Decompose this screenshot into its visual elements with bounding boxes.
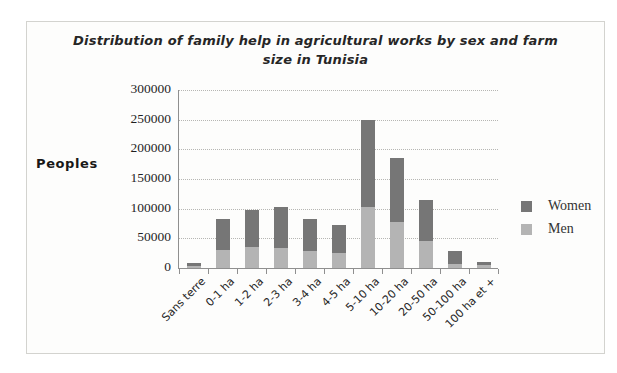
x-tick [353, 269, 354, 274]
gridline [179, 179, 498, 180]
bar-segment-women-0 [187, 263, 201, 267]
y-tick-label: 200000 [87, 140, 171, 156]
y-tick-label: 100000 [87, 200, 171, 216]
bar-segment-women-9 [448, 251, 462, 263]
plot-area: 050000100000150000200000250000300000Sans… [178, 90, 498, 269]
bar-segment-men-3 [274, 248, 288, 268]
bar-segment-women-6 [361, 120, 375, 207]
y-tick-label: 150000 [87, 170, 171, 186]
bar-segment-men-6 [361, 207, 375, 268]
legend-swatch-women [521, 201, 532, 212]
gridline [179, 149, 498, 150]
bar-segment-women-1 [216, 219, 230, 250]
x-category-label: 3-4 ha [290, 275, 324, 309]
x-tick [382, 269, 383, 274]
bar-segment-women-2 [245, 210, 259, 247]
legend-item-men: Men [521, 221, 591, 237]
bar-segment-men-8 [419, 241, 433, 268]
x-tick [179, 269, 180, 274]
gridline [179, 209, 498, 210]
x-tick [295, 269, 296, 274]
chart-title: Distribution of family help in agricultu… [67, 31, 564, 69]
legend-label-women: Women [548, 198, 591, 214]
x-tick [440, 269, 441, 274]
x-category-label: 1-2 ha [232, 275, 266, 309]
bar-segment-men-0 [187, 266, 201, 268]
legend-swatch-men [521, 224, 532, 235]
x-tick [266, 269, 267, 274]
bar-segment-women-8 [419, 200, 433, 241]
bar-segment-men-5 [332, 253, 346, 268]
bar-segment-women-7 [390, 158, 404, 222]
gridline [179, 120, 498, 121]
x-tick [469, 269, 470, 274]
bar-segment-men-7 [390, 222, 404, 268]
legend: WomenMen [521, 198, 591, 237]
legend-label-men: Men [548, 221, 574, 237]
bar-segment-men-1 [216, 250, 230, 268]
y-tick-label: 300000 [87, 81, 171, 97]
y-axis-title: Peoples [36, 156, 98, 171]
bar-segment-men-2 [245, 247, 259, 268]
x-tick [498, 269, 499, 274]
chart-title-line-1: Distribution of family help in agricultu… [67, 31, 564, 50]
chart-frame: Distribution of family help in agricultu… [26, 21, 605, 354]
legend-item-women: Women [521, 198, 591, 214]
x-category-label: 2-3 ha [261, 275, 295, 309]
x-tick [324, 269, 325, 274]
x-tick [237, 269, 238, 274]
bar-segment-women-3 [274, 207, 288, 247]
bar-segment-men-4 [303, 251, 317, 268]
x-tick [411, 269, 412, 274]
y-tick-label: 50000 [87, 229, 171, 245]
y-tick-label: 250000 [87, 111, 171, 127]
x-category-label: 0-1 ha [203, 275, 237, 309]
x-category-label: Sans terre [159, 275, 208, 324]
gridline [179, 90, 498, 91]
y-tick-label: 0 [87, 259, 171, 275]
chart-title-line-2: size in Tunisia [67, 50, 564, 69]
bar-segment-men-9 [448, 264, 462, 268]
bar-segment-women-4 [303, 219, 317, 251]
bar-segment-men-10 [477, 265, 491, 268]
bar-segment-women-10 [477, 262, 491, 266]
bar-segment-women-5 [332, 225, 346, 253]
x-tick [208, 269, 209, 274]
